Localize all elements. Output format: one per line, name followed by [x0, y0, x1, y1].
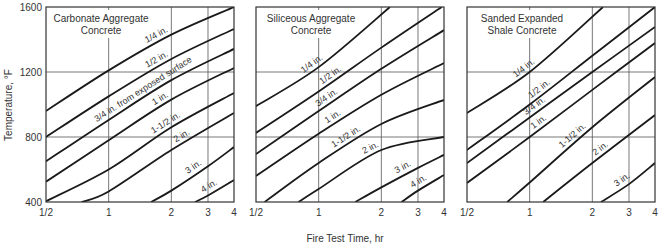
curve-1-2-in	[46, 29, 234, 137]
panel-title-line: Shale Concrete	[488, 25, 557, 36]
chart-panel-1: Carbonate AggregateConcrete1/4 in.1/2 in…	[20, 2, 237, 218]
y-tick-label: 1600	[20, 2, 43, 13]
x-tick-label: 2	[590, 207, 596, 218]
y-tick-label: 400	[25, 197, 42, 208]
x-tick-label: 4	[652, 207, 658, 218]
x-tick-label: 1	[527, 207, 533, 218]
x-tick-label: 2	[169, 207, 175, 218]
x-tick-label: 1/2	[249, 207, 263, 218]
curve-1-in	[467, 43, 655, 183]
curve-label: 2 in.	[172, 127, 192, 144]
x-tick-label: 1	[316, 207, 322, 218]
panel-title-line: Concrete	[291, 25, 332, 36]
chart-panel-3: Sanded ExpandedShale Concrete1/4 in.1/2 …	[460, 7, 658, 218]
fire-test-temperature-chart: Carbonate AggregateConcrete1/4 in.1/2 in…	[0, 0, 660, 249]
y-tick-label: 1200	[20, 67, 43, 78]
y-axis-title: Temperature, °F	[3, 69, 14, 141]
x-tick-label: 4	[441, 207, 447, 218]
curve-2-in	[543, 115, 655, 202]
x-tick-label: 3	[626, 207, 632, 218]
curve-label: 2 in.	[590, 139, 610, 157]
x-tick-label: 3	[415, 207, 421, 218]
x-axis-title: Fire Test Time, hr	[306, 233, 384, 244]
x-tick-label: 1/2	[39, 207, 53, 218]
panel-title: Sanded ExpandedShale Concrete	[471, 10, 583, 38]
panel-title-line: Carbonate Aggregate	[53, 13, 149, 24]
curve-3-4-in	[46, 49, 234, 161]
y-tick-label: 800	[25, 132, 42, 143]
curve-1-in	[256, 63, 444, 176]
panel-title-line: Sanded Expanded	[481, 13, 563, 24]
x-tick-label: 1/2	[460, 207, 474, 218]
panel-title: Siliceous AggregateConcrete	[260, 10, 372, 38]
curve-label: 2 in.	[360, 139, 380, 156]
curve-3-in	[601, 163, 655, 202]
panel-title-line: Siliceous Aggregate	[267, 13, 356, 24]
chart-panel-2: Siliceous AggregateConcrete1/4 in.1/2 in…	[249, 7, 447, 218]
x-tick-label: 4	[231, 207, 237, 218]
x-tick-label: 1	[106, 207, 112, 218]
x-tick-label: 3	[205, 207, 211, 218]
curve-label: 1 in.	[323, 108, 343, 126]
panel-title-line: Concrete	[81, 25, 122, 36]
curve-label: 3 in.	[183, 158, 203, 176]
x-tick-label: 2	[379, 207, 385, 218]
